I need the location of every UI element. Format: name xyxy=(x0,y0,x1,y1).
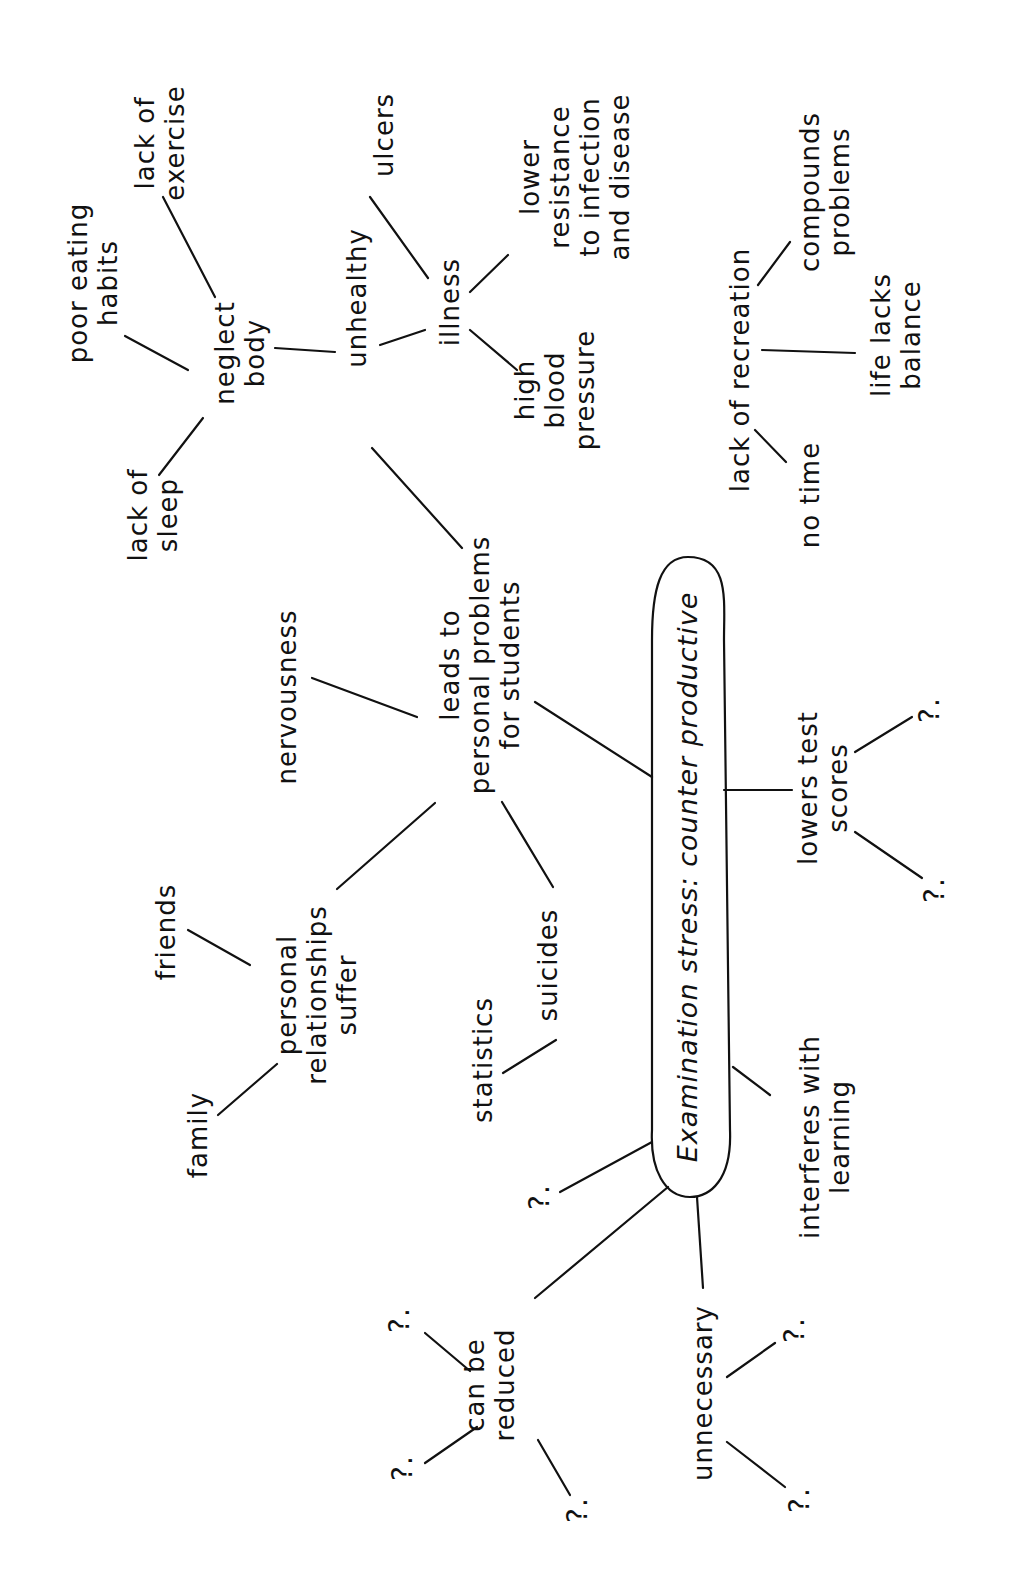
node-can-be-reduced: can be reduced xyxy=(460,1329,520,1442)
node-question-reduce-1: ?. xyxy=(385,1307,415,1333)
node-friends: friends xyxy=(151,884,181,981)
central-topic: Examination stress: counter productive xyxy=(673,592,703,1163)
node-statistics: statistics xyxy=(468,997,498,1123)
node-question-central: ?. xyxy=(525,1184,555,1210)
node-neglect-body: neglect body xyxy=(210,301,270,405)
node-lack-of-exercise: lack of exercise xyxy=(130,85,190,200)
node-suicides: suicides xyxy=(533,909,563,1022)
node-life-lacks-balance: life lacks balance xyxy=(866,273,926,397)
node-lower-resistance: lower resistance to infection and diseas… xyxy=(515,94,635,261)
node-leads-to-personal-problems: leads to personal problems for students xyxy=(435,536,525,795)
node-ulcers: ulcers xyxy=(369,93,399,177)
node-nervousness: nervousness xyxy=(272,609,302,784)
node-lowers-test-scores: lowers test scores xyxy=(793,711,853,865)
node-high-blood-pressure: high blood pressure xyxy=(510,330,600,450)
node-unnecessary: unnecessary xyxy=(688,1305,718,1481)
mind-map-canvas: Examination stress: counter productive l… xyxy=(0,0,1026,1571)
node-question-unnecessary-1: ?. xyxy=(780,1317,810,1343)
node-lack-of-sleep: lack of sleep xyxy=(123,469,183,562)
node-unhealthy: unhealthy xyxy=(342,228,372,368)
node-question-unnecessary-2: ?. xyxy=(785,1487,815,1513)
node-illness: illness xyxy=(435,258,465,346)
node-question-test-2: ?. xyxy=(920,877,950,903)
node-lack-of-recreation: lack of recreation xyxy=(725,248,755,492)
node-question-reduce-2: ?. xyxy=(388,1455,418,1481)
node-question-test-1: ?. xyxy=(915,697,945,723)
node-family: family xyxy=(183,1092,213,1178)
node-compounds-problems: compounds problems xyxy=(795,112,855,272)
node-no-time: no time xyxy=(795,442,825,548)
node-interferes-with-learning: interferes with learning xyxy=(795,1035,855,1239)
node-personal-relationships-suffer: personal relationships suffer xyxy=(272,905,362,1084)
node-poor-eating-habits: poor eating habits xyxy=(63,203,123,364)
node-question-reduce-3: ?. xyxy=(563,1497,593,1523)
